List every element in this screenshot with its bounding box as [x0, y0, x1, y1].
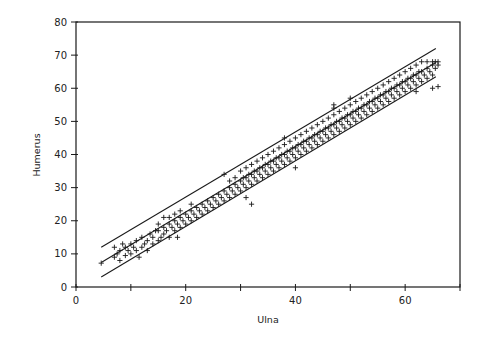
x-tick-label: 40	[289, 295, 302, 306]
y-tick-label: 70	[54, 50, 67, 61]
y-tick-label: 40	[54, 149, 67, 160]
y-tick-label: 0	[61, 282, 67, 293]
scatter-chart: 0204060 01020304050607080 Ulna Humerus	[0, 0, 479, 337]
y-axis-label: Humerus	[31, 133, 42, 176]
x-tick-label: 20	[179, 295, 192, 306]
y-tick-label: 20	[54, 215, 67, 226]
y-tick-label: 50	[54, 116, 67, 127]
y-tick-label: 60	[54, 83, 67, 94]
x-tick-label: 0	[73, 295, 79, 306]
y-tick-label: 10	[54, 248, 67, 259]
y-tick-label: 80	[54, 17, 67, 28]
x-axis-label: Ulna	[257, 314, 278, 325]
y-tick-label: 30	[54, 182, 67, 193]
x-tick-label: 60	[399, 295, 412, 306]
